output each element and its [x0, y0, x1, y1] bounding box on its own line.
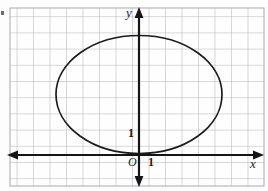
y-axis-tick-label-1: 1 [128, 127, 134, 139]
origin-label: O [128, 156, 137, 168]
x-axis-tick-label-1: 1 [148, 156, 154, 168]
y-axis-label: y [126, 6, 132, 19]
graph-figure: y x O 1 1 [0, 0, 268, 191]
x-axis-label: x [250, 157, 256, 170]
